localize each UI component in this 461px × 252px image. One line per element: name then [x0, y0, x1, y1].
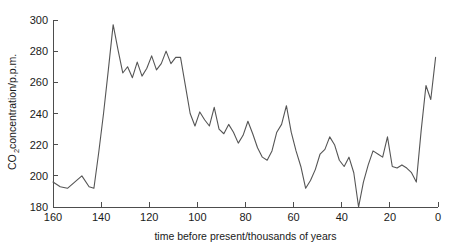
x-axis-ticks	[53, 202, 438, 207]
y-axis-title: CO 2 concentration/p.p.m.	[6, 54, 21, 170]
co2-data-line	[53, 25, 436, 207]
y-axis-tick-labels: 180 200 220 240 260 280 300	[30, 14, 48, 213]
y-tick-label-200: 200	[30, 170, 48, 182]
x-tick-label-0: 0	[435, 211, 441, 223]
y-tick-label-220: 220	[30, 139, 48, 151]
x-tick-label-160: 160	[44, 211, 62, 223]
y-axis-title-text: CO	[6, 154, 18, 170]
x-tick-label-140: 140	[92, 211, 110, 223]
x-tick-label-40: 40	[336, 211, 348, 223]
x-axis-title: time before present/thousands of years	[154, 230, 336, 242]
y-tick-label-280: 280	[30, 45, 48, 57]
x-tick-label-100: 100	[188, 211, 206, 223]
co2-concentration-chart-figure: CO 2 concentration/p.p.m. 180 200 220 24…	[0, 0, 461, 252]
x-tick-label-80: 80	[239, 211, 251, 223]
x-tick-label-20: 20	[384, 211, 396, 223]
y-axis-ticks	[53, 20, 58, 207]
x-axis-tick-labels: 160 140 120 100 80 60 40 20 0	[44, 211, 441, 223]
y-tick-label-300: 300	[30, 14, 48, 26]
chart-plot-area: CO 2 concentration/p.p.m. 180 200 220 24…	[0, 0, 461, 252]
y-tick-label-240: 240	[30, 108, 48, 120]
y-axis-title-rest: concentration/p.p.m.	[6, 54, 18, 149]
x-tick-label-60: 60	[287, 211, 299, 223]
y-tick-label-260: 260	[30, 76, 48, 88]
x-tick-label-120: 120	[140, 211, 158, 223]
